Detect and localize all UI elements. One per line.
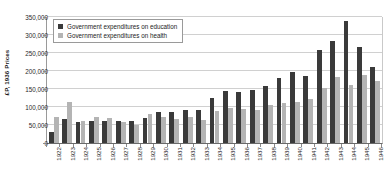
x-tick-label: 1923: [69, 147, 76, 177]
y-tick-mark: [43, 17, 46, 18]
x-tick-mark: [327, 144, 328, 147]
x-tick-mark: [354, 144, 355, 147]
x-tick-label: 1942: [323, 147, 330, 177]
x-tick-mark: [220, 144, 221, 147]
x-tick-mark: [247, 144, 248, 147]
y-tick-label: 300,000: [8, 32, 48, 39]
x-tick-label: 1931: [176, 147, 183, 177]
x-tick-label: 1933: [203, 147, 210, 177]
y-tick-label: 50,000: [8, 122, 48, 129]
bar-group: [210, 17, 220, 143]
x-tick-label: 1929: [149, 147, 156, 177]
x-tick-mark: [46, 144, 47, 147]
x-tick-mark: [126, 144, 127, 147]
y-tick-label: 100,000: [8, 104, 48, 111]
legend-label-education: Government expenditures on education: [67, 23, 177, 30]
x-tick-mark: [113, 144, 114, 147]
bar-health: [121, 122, 126, 143]
x-tick-mark: [368, 144, 369, 147]
x-tick-label: 1937: [256, 147, 263, 177]
bar-group: [317, 17, 327, 143]
bar-health: [107, 118, 112, 143]
bar-group: [263, 17, 273, 143]
bar-health: [228, 108, 233, 143]
x-tick-label: 1932: [189, 147, 196, 177]
x-tick-label: 1935: [229, 147, 236, 177]
y-tick-label: 350,000: [8, 14, 48, 21]
legend-swatch-health-icon: [58, 33, 63, 38]
bar-health: [295, 102, 300, 143]
bar-health: [67, 102, 72, 143]
bar-group: [370, 17, 380, 143]
y-tick-mark: [43, 71, 46, 72]
y-tick-mark: [43, 107, 46, 108]
x-tick-label: 1934: [216, 147, 223, 177]
bar-group: [250, 17, 260, 143]
chart-legend: Government expenditures on education Gov…: [53, 19, 183, 43]
x-tick-mark: [287, 144, 288, 147]
bar-health: [174, 119, 179, 143]
x-tick-label: 1943: [337, 147, 344, 177]
x-tick-label: 1944: [350, 147, 357, 177]
x-tick-mark: [260, 144, 261, 147]
bar-health: [255, 110, 260, 143]
y-tick-mark: [43, 125, 46, 126]
y-tick-label: 150,000: [8, 86, 48, 93]
x-tick-mark: [234, 144, 235, 147]
bar-health: [308, 99, 313, 143]
bar-health: [268, 105, 273, 143]
x-tick-mark: [167, 144, 168, 147]
bar-health: [81, 121, 86, 143]
x-tick-label: 1922: [55, 147, 62, 177]
x-tick-mark: [207, 144, 208, 147]
x-tick-mark: [73, 144, 74, 147]
x-tick-label: 1925: [95, 147, 102, 177]
x-tick-label: 1926: [109, 147, 116, 177]
bar-health: [282, 103, 287, 143]
bar-group: [277, 17, 287, 143]
x-tick-label: 1945: [363, 147, 370, 177]
bar-group: [196, 17, 206, 143]
bar-health: [375, 81, 380, 143]
x-tick-label: 1936: [243, 147, 250, 177]
bar-group: [330, 17, 340, 143]
x-tick-label: 1941: [310, 147, 317, 177]
y-tick-mark: [43, 89, 46, 90]
bar-health: [322, 88, 327, 143]
x-tick-mark: [153, 144, 154, 147]
bar-health: [335, 77, 340, 143]
bar-chart: £P, 1936 Prices 050,000100,000150,000200…: [0, 0, 388, 182]
bar-group: [344, 17, 354, 143]
bar-health: [54, 117, 59, 143]
y-tick-label: 250,000: [8, 50, 48, 57]
bar-health: [134, 125, 139, 143]
bar-health: [241, 109, 246, 143]
x-tick-mark: [314, 144, 315, 147]
x-tick-label: 1946: [377, 147, 384, 177]
bar-health: [94, 117, 99, 143]
x-tick-label: 1938: [270, 147, 277, 177]
bar-health: [188, 117, 193, 143]
legend-item-education: Government expenditures on education: [58, 23, 177, 30]
y-tick-mark: [43, 35, 46, 36]
bar-group: [357, 17, 367, 143]
bar-group: [290, 17, 300, 143]
x-tick-mark: [180, 144, 181, 147]
bar-group: [223, 17, 233, 143]
bar-health: [215, 111, 220, 143]
x-tick-label: 1928: [136, 147, 143, 177]
legend-label-health: Government expenditures on health: [67, 32, 167, 39]
bar-health: [161, 117, 166, 143]
x-tick-mark: [274, 144, 275, 147]
bar-health: [349, 85, 354, 143]
x-tick-label: 1927: [122, 147, 129, 177]
bar-group: [303, 17, 313, 143]
x-tick-mark: [86, 144, 87, 147]
legend-swatch-education-icon: [58, 24, 63, 29]
x-tick-label: 1940: [296, 147, 303, 177]
y-tick-label: 200,000: [8, 68, 48, 75]
bar-health: [148, 114, 153, 143]
legend-item-health: Government expenditures on health: [58, 32, 177, 39]
x-tick-mark: [341, 144, 342, 147]
bar-health: [362, 75, 367, 143]
